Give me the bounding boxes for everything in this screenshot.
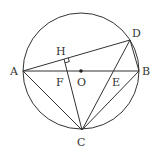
segment-bd <box>130 40 139 71</box>
label-b: B <box>142 65 150 78</box>
geometry-diagram: A B C D H F O E <box>0 0 160 153</box>
center-dot-o <box>79 69 83 73</box>
label-a: A <box>9 65 19 78</box>
segment-ad <box>23 40 130 71</box>
label-o: O <box>77 76 86 89</box>
label-h: H <box>56 45 66 58</box>
label-f: F <box>56 76 64 89</box>
label-e: E <box>112 76 120 89</box>
segment-ch <box>64 59 82 130</box>
segment-cd <box>82 40 130 130</box>
label-d: D <box>132 27 141 40</box>
label-c: C <box>77 136 85 149</box>
